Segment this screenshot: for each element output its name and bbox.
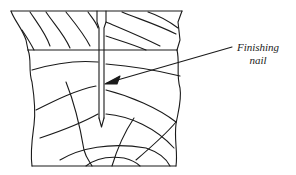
callout-label-line1: Finishing (232, 41, 284, 54)
nail-joint-diagram (0, 0, 296, 175)
callout-label-line2: nail (232, 54, 284, 67)
